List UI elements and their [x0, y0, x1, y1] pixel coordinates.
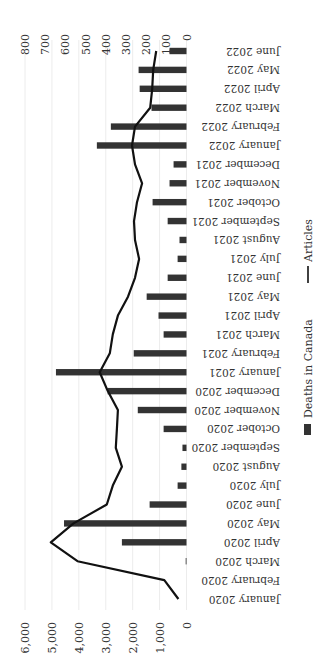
chart-container: 01,0002,0003,0004,0005,0006,000 01002003… — [0, 0, 319, 657]
legend-deaths-text: Deaths in Canada — [302, 319, 315, 418]
month-label: March 2022 — [215, 102, 280, 114]
deaths-bar — [181, 464, 186, 470]
deaths-bar — [164, 331, 187, 337]
month-label: November 2021 — [194, 178, 280, 190]
month-label: March 2020 — [215, 556, 280, 568]
month-label: October 2021 — [207, 197, 280, 209]
month-label: January 2021 — [209, 367, 281, 379]
deaths-bar — [168, 218, 187, 224]
month-label: March 2021 — [215, 329, 280, 341]
deaths-bar — [159, 312, 187, 318]
legend-articles-text: Articles — [302, 219, 315, 263]
deaths-axis-tick: 0 — [181, 622, 194, 629]
deaths-bar — [180, 237, 187, 243]
articles-axis-tick: 300 — [120, 34, 133, 55]
deaths-axis-tick: 6,000 — [19, 622, 32, 654]
month-label: July 2021 — [230, 253, 281, 265]
month-label: May 2020 — [227, 518, 280, 530]
month-label: April 2020 — [224, 537, 281, 549]
month-label: February 2022 — [201, 121, 280, 133]
deaths-bar — [139, 67, 187, 73]
articles-axis-tick: 100 — [160, 34, 173, 55]
deaths-bar — [138, 407, 187, 413]
rotated-bar-line-chart: 01,0002,0003,0004,0005,0006,000 01002003… — [0, 0, 319, 657]
month-label: January 2022 — [209, 140, 281, 152]
deaths-bar — [150, 501, 187, 507]
month-label: September 2020 — [191, 442, 280, 454]
month-labels: January 2020February 2020March 2020April… — [191, 46, 281, 606]
month-label: December 2021 — [195, 159, 280, 171]
deaths-bars — [56, 48, 187, 565]
legend: Deaths in CanadaArticles — [302, 219, 315, 435]
deaths-bar — [111, 123, 187, 129]
month-label: November 2020 — [194, 405, 280, 417]
deaths-bar — [147, 293, 187, 299]
deaths-bar — [174, 161, 187, 167]
articles-axis: 0100200300400500600700800 — [19, 34, 194, 55]
deaths-axis-tick: 5,000 — [46, 622, 59, 654]
deaths-bar — [164, 426, 187, 432]
deaths-bar — [152, 104, 187, 110]
deaths-bar — [56, 369, 187, 375]
articles-axis-tick: 800 — [19, 34, 32, 55]
month-label: August 2021 — [213, 234, 282, 246]
deaths-bar — [122, 539, 187, 545]
legend-bar-swatch — [304, 424, 311, 435]
deaths-axis-tick: 1,000 — [154, 622, 167, 654]
month-label: May 2021 — [227, 291, 280, 303]
month-label: February 2020 — [201, 575, 280, 587]
month-label: April 2022 — [224, 83, 281, 95]
month-label: July 2020 — [230, 480, 281, 492]
articles-axis-tick: 700 — [39, 34, 52, 55]
month-label: May 2022 — [227, 64, 280, 76]
deaths-bar — [168, 275, 187, 281]
month-label: September 2021 — [191, 216, 280, 228]
month-label: December 2020 — [195, 386, 280, 398]
articles-axis-tick: 500 — [80, 34, 93, 55]
month-label: June 2021 — [226, 272, 281, 284]
deaths-bar — [108, 388, 187, 394]
deaths-bar — [97, 142, 187, 148]
deaths-axis-tick: 2,000 — [127, 622, 140, 654]
deaths-bar — [170, 180, 187, 186]
month-label: April 2021 — [224, 310, 281, 322]
deaths-bar — [134, 350, 187, 356]
deaths-axis: 01,0002,0003,0004,0005,0006,000 — [19, 622, 194, 654]
deaths-bar — [178, 482, 187, 488]
articles-axis-tick: 0 — [181, 34, 194, 41]
deaths-bar — [153, 199, 187, 205]
deaths-bar — [140, 86, 187, 92]
month-label: June 2020 — [226, 499, 281, 511]
month-label: January 2020 — [209, 594, 281, 606]
articles-axis-tick: 400 — [100, 34, 113, 55]
month-label: June 2022 — [226, 46, 281, 58]
month-label: February 2021 — [201, 348, 280, 360]
month-label: August 2020 — [213, 461, 282, 473]
deaths-axis-tick: 4,000 — [73, 622, 86, 654]
articles-axis-tick: 600 — [59, 34, 72, 55]
deaths-bar — [182, 445, 186, 451]
deaths-bar — [178, 256, 187, 262]
month-label: October 2020 — [207, 423, 280, 435]
deaths-bar — [186, 558, 187, 564]
deaths-bar — [64, 520, 186, 526]
deaths-axis-tick: 3,000 — [100, 622, 113, 654]
articles-axis-tick: 200 — [140, 34, 153, 55]
